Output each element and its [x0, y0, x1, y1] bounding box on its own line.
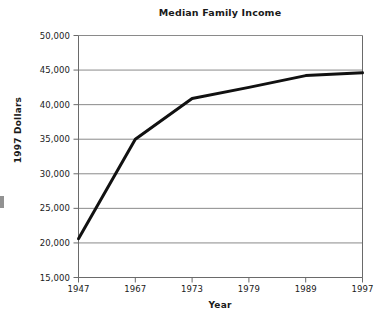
chart-title: Median Family Income	[78, 7, 362, 18]
y-tick-label: 15,000	[26, 273, 70, 283]
page-edge-artifact	[0, 196, 4, 208]
x-tick-label: 1979	[226, 284, 272, 294]
y-tick-label: 30,000	[26, 169, 70, 179]
chart-container: Median Family Income 1997 Dollars Year 1…	[0, 0, 381, 325]
y-tick-label: 25,000	[26, 203, 70, 213]
y-axis-title: 1997 Dollars	[13, 90, 23, 170]
data-line-median-family-income	[79, 73, 363, 239]
x-tick-label: 1989	[283, 284, 329, 294]
y-tick-label: 50,000	[26, 31, 70, 41]
x-tick-label: 1973	[169, 284, 215, 294]
x-tick-label: 1947	[56, 284, 102, 294]
x-tick-label: 1967	[112, 284, 158, 294]
y-tick-label: 20,000	[26, 238, 70, 248]
x-tick-label: 1997	[340, 284, 381, 294]
y-tick-label: 40,000	[26, 100, 70, 110]
y-tick-label: 45,000	[26, 65, 70, 75]
x-axis-title: Year	[78, 300, 362, 310]
y-tick-label: 35,000	[26, 134, 70, 144]
